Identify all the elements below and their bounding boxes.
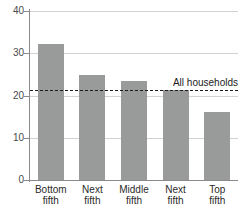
bar-chart-figure: 010203040 All households BottomfifthNext…: [0, 0, 243, 215]
y-axis-tick-mark: [24, 11, 29, 12]
category-label-line1: Middle: [119, 184, 148, 195]
plot-area: All households: [30, 11, 238, 180]
category-label-line2: fifth: [196, 195, 238, 206]
all-households-reference-line: [30, 90, 238, 91]
category-label-line2: fifth: [113, 195, 155, 206]
bar: [163, 90, 189, 180]
gridline: [30, 11, 238, 12]
y-axis-tick-mark: [24, 138, 29, 139]
category-label-line2: fifth: [155, 195, 197, 206]
category-label-line1: Next: [165, 184, 186, 195]
bar: [79, 75, 105, 180]
y-axis-tick: 20: [0, 91, 24, 101]
y-axis-tick-label: 0: [2, 175, 24, 185]
y-axis-tick-label: 20: [2, 91, 24, 101]
bar: [204, 112, 230, 180]
bar: [121, 81, 147, 180]
category-label-line2: fifth: [72, 195, 114, 206]
y-axis-tick: 40: [0, 6, 24, 16]
x-axis-category-label: Middlefifth: [113, 184, 155, 206]
x-axis-category-label: Topfifth: [196, 184, 238, 206]
y-axis-tick: 30: [0, 48, 24, 58]
y-axis-tick-mark: [24, 53, 29, 54]
x-axis-line: [24, 180, 238, 181]
x-axis-category-label: Bottomfifth: [30, 184, 72, 206]
category-label-line2: fifth: [30, 195, 72, 206]
bar: [38, 44, 64, 180]
y-axis-tick-mark: [24, 96, 29, 97]
y-axis-tick-label: 40: [2, 6, 24, 16]
y-axis-tick-mark: [24, 180, 29, 181]
y-axis-tick: 10: [0, 133, 24, 143]
x-axis-category-label: Nextfifth: [155, 184, 197, 206]
category-label-line1: Next: [82, 184, 103, 195]
y-axis-tick-label: 10: [2, 133, 24, 143]
y-axis-tick: 0: [0, 175, 24, 185]
x-axis-category-label: Nextfifth: [72, 184, 114, 206]
all-households-reference-label: All households: [173, 77, 238, 88]
category-label-line1: Top: [209, 184, 225, 195]
category-label-line1: Bottom: [35, 184, 67, 195]
y-axis-tick-label: 30: [2, 48, 24, 58]
